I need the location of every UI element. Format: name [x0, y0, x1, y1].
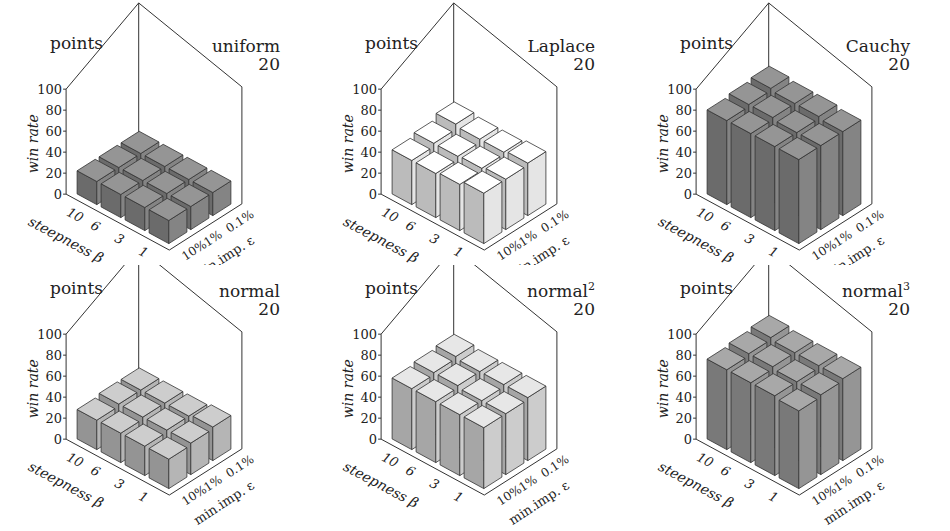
svg-text:20: 20	[46, 411, 63, 426]
svg-text:100: 100	[667, 82, 692, 97]
svg-text:0: 0	[369, 187, 377, 202]
svg-text:0.1%: 0.1%	[538, 207, 571, 235]
svg-text:10: 10	[64, 449, 86, 470]
svg-text:0.1%: 0.1%	[853, 207, 886, 235]
z-axis-label: win rate	[655, 114, 671, 173]
svg-text:6: 6	[718, 217, 732, 234]
svg-text:100: 100	[352, 327, 377, 342]
svg-text:20: 20	[361, 411, 378, 426]
svg-text:80: 80	[676, 348, 693, 363]
subplot-normal: points normal 20 020406080100win rate106…	[0, 265, 316, 530]
bar3d-plot: 020406080100win rate10631steepness β10%1…	[0, 265, 316, 530]
svg-text:80: 80	[46, 103, 63, 118]
svg-text:40: 40	[676, 390, 693, 405]
svg-text:1: 1	[451, 488, 465, 505]
z-axis-label: win rate	[25, 114, 41, 173]
svg-text:60: 60	[46, 124, 63, 139]
svg-text:0: 0	[54, 432, 62, 447]
svg-text:20: 20	[361, 166, 378, 181]
z-axis-label: win rate	[340, 114, 356, 173]
bars	[707, 315, 861, 488]
svg-text:6: 6	[718, 462, 732, 479]
subplot-laplace: points Laplace 20 020406080100win rate10…	[315, 0, 631, 265]
subplot-normal3: points normal3 20 020406080100win rate10…	[630, 265, 946, 530]
bar-beta1-eps10%	[779, 137, 817, 243]
bar3d-plot: 020406080100win rate10631steepness β10%1…	[315, 0, 631, 265]
z-axis-label: win rate	[655, 359, 671, 418]
svg-text:40: 40	[361, 145, 378, 160]
svg-text:10: 10	[379, 204, 401, 225]
svg-text:0: 0	[369, 432, 377, 447]
svg-text:0: 0	[684, 187, 692, 202]
bar3d-plot: 020406080100win rate10631steepness β10%1…	[630, 0, 946, 265]
svg-text:0.1%: 0.1%	[223, 207, 256, 235]
svg-text:60: 60	[676, 369, 693, 384]
svg-text:10: 10	[64, 204, 86, 225]
svg-text:3: 3	[742, 230, 756, 247]
svg-text:6: 6	[403, 217, 417, 234]
svg-text:0.1%: 0.1%	[223, 452, 256, 480]
svg-text:80: 80	[46, 348, 63, 363]
svg-text:0.1%: 0.1%	[538, 452, 571, 480]
svg-text:100: 100	[37, 82, 62, 97]
bar-beta1-eps10%	[779, 389, 817, 489]
svg-text:80: 80	[361, 103, 378, 118]
z-axis-ticks: 020406080100	[352, 82, 381, 202]
svg-text:10: 10	[694, 204, 716, 225]
svg-text:100: 100	[667, 327, 692, 342]
svg-text:40: 40	[361, 390, 378, 405]
bar3d-plot: 020406080100win rate10631steepness β10%1…	[0, 0, 316, 265]
bar-beta1-eps10%	[149, 437, 187, 489]
svg-text:0: 0	[684, 432, 692, 447]
svg-text:100: 100	[37, 327, 62, 342]
svg-text:1: 1	[136, 243, 150, 260]
z-axis-ticks: 020406080100	[352, 327, 381, 447]
svg-text:60: 60	[676, 124, 693, 139]
svg-text:60: 60	[361, 369, 378, 384]
z-axis-ticks: 020406080100	[37, 82, 66, 202]
svg-text:80: 80	[361, 348, 378, 363]
z-axis-label: win rate	[340, 359, 356, 418]
svg-text:40: 40	[46, 390, 63, 405]
svg-text:40: 40	[676, 145, 693, 160]
svg-text:1: 1	[766, 488, 780, 505]
z-axis-label: win rate	[25, 359, 41, 418]
subplot-uniform: points uniform 20 020406080100win rate10…	[0, 0, 316, 265]
subplot-cauchy: points Cauchy 20 020406080100win rate106…	[630, 0, 946, 265]
svg-text:3: 3	[112, 230, 126, 247]
svg-text:20: 20	[676, 411, 693, 426]
svg-text:0: 0	[54, 187, 62, 202]
svg-text:1: 1	[136, 488, 150, 505]
bars	[707, 66, 861, 243]
svg-text:10: 10	[694, 449, 716, 470]
svg-text:40: 40	[46, 145, 63, 160]
bar-beta1-eps10%	[464, 406, 502, 489]
svg-text:1: 1	[451, 243, 465, 260]
z-axis-ticks: 020406080100	[37, 327, 66, 447]
svg-text:3: 3	[112, 475, 126, 492]
svg-text:3: 3	[427, 475, 441, 492]
bar-beta1-eps10%	[464, 171, 502, 244]
svg-text:6: 6	[88, 217, 102, 234]
svg-text:6: 6	[403, 462, 417, 479]
svg-text:20: 20	[676, 166, 693, 181]
bar3d-plot: 020406080100win rate10631steepness β10%1…	[630, 265, 946, 530]
svg-text:10: 10	[379, 449, 401, 470]
subplot-normal2: points normal2 20 020406080100win rate10…	[315, 265, 631, 530]
z-axis-ticks: 020406080100	[667, 327, 696, 447]
svg-text:1: 1	[766, 243, 780, 260]
svg-text:80: 80	[676, 103, 693, 118]
bars	[77, 131, 231, 243]
svg-text:6: 6	[88, 462, 102, 479]
svg-text:0.1%: 0.1%	[853, 452, 886, 480]
svg-text:3: 3	[427, 230, 441, 247]
svg-text:3: 3	[742, 475, 756, 492]
svg-text:20: 20	[46, 166, 63, 181]
z-axis-ticks: 020406080100	[667, 82, 696, 202]
svg-text:100: 100	[352, 82, 377, 97]
bar3d-plot: 020406080100win rate10631steepness β10%1…	[315, 265, 631, 530]
svg-text:60: 60	[361, 124, 378, 139]
svg-text:60: 60	[46, 369, 63, 384]
